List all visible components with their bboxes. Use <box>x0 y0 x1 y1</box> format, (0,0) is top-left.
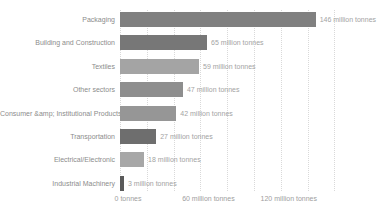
value-label: 3 million tonnes <box>128 176 177 191</box>
chart-row: Textiles59 million tonnes <box>0 59 385 74</box>
bar-chart: Packaging146 million tonnesBuilding and … <box>0 0 385 216</box>
chart-row: Transportation27 million tonnes <box>0 129 385 144</box>
bar[interactable] <box>120 176 124 191</box>
value-label: 27 million tonnes <box>160 129 213 144</box>
value-label: 47 million tonnes <box>187 82 240 97</box>
value-label: 146 million tonnes <box>320 12 376 27</box>
category-label: Building and Construction <box>0 35 115 50</box>
category-label: Industrial Machinery <box>0 176 115 191</box>
x-axis-tick-label: 60 million tonnes <box>163 195 253 202</box>
chart-row: Consumer &amp; Institutional Products42 … <box>0 106 385 121</box>
category-label: Electrical/Electronic <box>0 152 115 167</box>
category-label: Other sectors <box>0 82 115 97</box>
bar[interactable] <box>120 82 183 97</box>
x-axis-tick-label: 0 tonnes <box>83 195 173 202</box>
bar[interactable] <box>120 152 144 167</box>
value-label: 18 million tonnes <box>148 152 201 167</box>
value-label: 59 million tonnes <box>203 59 256 74</box>
chart-row: Building and Construction65 million tonn… <box>0 35 385 50</box>
bar[interactable] <box>120 129 156 144</box>
chart-row: Industrial Machinery3 million tonnes <box>0 176 385 191</box>
category-label: Textiles <box>0 59 115 74</box>
category-label: Packaging <box>0 12 115 27</box>
bar[interactable] <box>120 35 207 50</box>
chart-row: Packaging146 million tonnes <box>0 12 385 27</box>
x-axis-tick-label: 120 million tonnes <box>244 195 334 202</box>
value-label: 65 million tonnes <box>211 35 264 50</box>
category-label: Transportation <box>0 129 115 144</box>
bar[interactable] <box>120 106 176 121</box>
value-label: 42 million tonnes <box>180 106 233 121</box>
chart-row: Other sectors47 million tonnes <box>0 82 385 97</box>
category-label: Consumer &amp; Institutional Products <box>0 106 115 121</box>
bar[interactable] <box>120 59 199 74</box>
bar[interactable] <box>120 12 316 27</box>
chart-row: Electrical/Electronic18 million tonnes <box>0 152 385 167</box>
